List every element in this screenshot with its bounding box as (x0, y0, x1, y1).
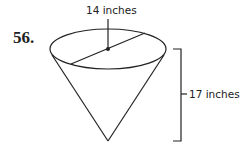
cone-diagram (0, 0, 250, 149)
height-bracket (173, 49, 181, 141)
cone-right-edge (108, 55, 164, 141)
center-point (106, 47, 110, 51)
cone-left-edge (52, 55, 108, 141)
